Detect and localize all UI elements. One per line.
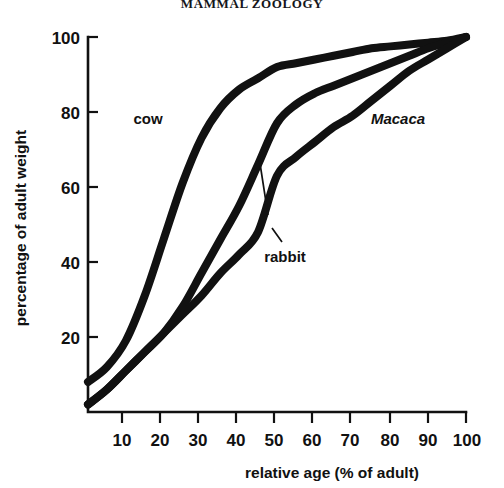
series-label-rabbit: rabbit: [264, 248, 306, 265]
data-curves: [88, 37, 466, 405]
x-tick-label-30: 30: [189, 431, 208, 450]
x-tick-marks: [122, 412, 466, 423]
x-tick-label-100: 100: [453, 431, 481, 450]
y-tick-label-100: 100: [52, 29, 80, 48]
x-tick-label-20: 20: [151, 431, 170, 450]
x-tick-label-90: 90: [419, 431, 438, 450]
curve-macaca: [88, 37, 466, 405]
x-tick-label-60: 60: [303, 431, 322, 450]
series-label-macaca: Macaca: [371, 110, 425, 127]
x-tick-label-80: 80: [381, 431, 400, 450]
curve-cow: [88, 37, 466, 382]
x-tick-label-50: 50: [265, 431, 284, 450]
series-label-cow: cow: [133, 110, 163, 127]
y-tick-label-60: 60: [61, 179, 80, 198]
x-tick-label-70: 70: [341, 431, 360, 450]
x-axis-title: relative age (% of adult): [245, 464, 419, 481]
y-tick-label-80: 80: [61, 104, 80, 123]
growth-curve-chart: percentage of adult weight 100 80 60 40 …: [0, 0, 504, 488]
y-tick-marks: [88, 37, 98, 337]
figure-container: MAMMAL ZOOLOGY percentage of adult weigh…: [0, 0, 504, 488]
y-axis-title: percentage of adult weight: [12, 130, 29, 326]
x-tick-label-10: 10: [113, 431, 132, 450]
x-tick-label-40: 40: [227, 431, 246, 450]
y-tick-label-40: 40: [61, 254, 80, 273]
y-tick-label-20: 20: [61, 329, 80, 348]
